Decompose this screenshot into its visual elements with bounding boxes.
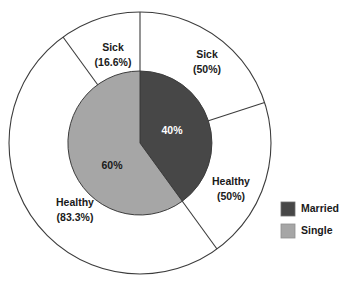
outer-label-married-sick-name: Sick xyxy=(196,48,218,60)
outer-label-married-healthy-value: (50%) xyxy=(217,190,245,202)
legend: Married Single xyxy=(281,202,339,238)
outer-label-married-healthy-name: Healthy xyxy=(212,175,250,187)
legend-label-single: Single xyxy=(301,224,333,236)
outer-label-single-sick-name: Sick xyxy=(102,41,124,53)
legend-swatch-single xyxy=(281,224,295,238)
outer-label-single-healthy-name: Healthy xyxy=(56,196,94,208)
legend-swatch-married xyxy=(281,202,295,216)
inner-label-single-value: 60% xyxy=(101,159,123,171)
chart-canvas: 40% 60% Sick (50%) Healthy (50%) Sick (1… xyxy=(0,0,347,292)
inner-label-married-value: 40% xyxy=(161,124,183,136)
legend-item-single[interactable]: Single xyxy=(281,224,333,238)
outer-label-single-sick-value: (16.6%) xyxy=(95,56,132,68)
nested-pie-chart: 40% 60% Sick (50%) Healthy (50%) Sick (1… xyxy=(0,0,347,292)
outer-label-married-sick-value: (50%) xyxy=(193,63,221,75)
outer-label-single-healthy-value: (83.3%) xyxy=(57,211,94,223)
legend-label-married: Married xyxy=(301,202,339,214)
legend-item-married[interactable]: Married xyxy=(281,202,339,216)
